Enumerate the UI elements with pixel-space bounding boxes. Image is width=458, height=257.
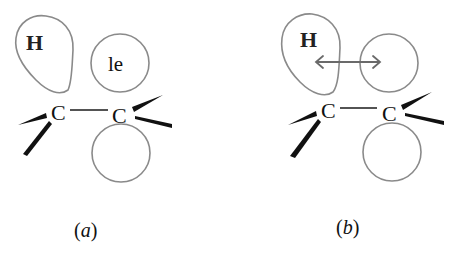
upper-orbital-label-a: le	[108, 52, 123, 76]
right-carbon-a: C	[112, 103, 127, 128]
wedge-bond-left-1-a	[18, 113, 47, 125]
hydrogen-label-a: H	[26, 30, 43, 55]
wedge-bond-left-2-a	[23, 121, 52, 156]
wedge-bond-left-2-b	[290, 119, 321, 158]
double-arrow-icon	[316, 56, 380, 68]
upper-p-orbital-b	[360, 34, 418, 92]
wedge-bond-right-1-b	[401, 92, 432, 110]
left-carbon-a: C	[51, 100, 66, 125]
wedge-bond-right-1-a	[132, 95, 163, 112]
left-carbon-b: C	[321, 98, 336, 123]
caption-b: (b)	[336, 216, 359, 239]
panel-a: H le C C (a)	[16, 16, 172, 242]
caption-a: (a)	[74, 219, 97, 242]
ch-bond-orbital-a	[16, 16, 73, 93]
right-carbon-b: C	[382, 101, 397, 126]
lower-p-orbital-a	[92, 124, 150, 182]
wedge-bond-right-2-a	[135, 116, 172, 128]
hyperconjugation-diagram: H le C C (a) H	[0, 0, 458, 257]
wedge-bond-right-2-b	[405, 113, 444, 125]
lower-p-orbital-b	[363, 123, 421, 181]
hydrogen-label-b: H	[300, 27, 317, 52]
panel-b: H C C (b)	[282, 14, 444, 239]
wedge-bond-left-1-b	[288, 111, 317, 125]
